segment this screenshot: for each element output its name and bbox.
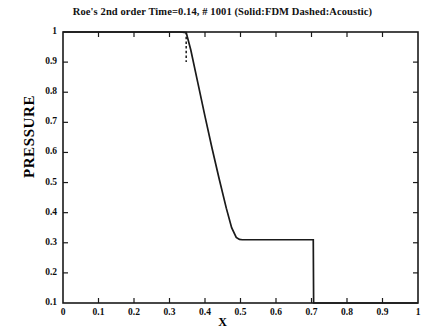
y-tick-label: 1: [23, 26, 57, 36]
x-tick-label: 0.8: [332, 307, 362, 317]
x-tick-label: 0.2: [119, 307, 149, 317]
curve-fdm-solid: [63, 32, 418, 303]
tick-marks: [63, 32, 418, 303]
y-tick-label: 0.1: [23, 297, 57, 307]
x-tick-label: 0.9: [368, 307, 398, 317]
y-tick-label: 0.5: [23, 177, 57, 187]
x-tick-label: 0.7: [297, 307, 327, 317]
y-tick-label: 0.9: [23, 56, 57, 66]
y-tick-label: 0.4: [23, 207, 57, 217]
y-tick-label: 0.2: [23, 267, 57, 277]
y-tick-label: 0.8: [23, 86, 57, 96]
x-tick-label: 0.1: [84, 307, 114, 317]
x-tick-label: 1: [403, 307, 433, 317]
data-curves: [63, 32, 418, 303]
y-tick-label: 0.3: [23, 237, 57, 247]
x-axis-label: X: [0, 315, 445, 330]
y-tick-label: 0.7: [23, 116, 57, 126]
x-tick-label: 0: [48, 307, 78, 317]
axes-frame: [63, 32, 418, 303]
plot-canvas: [0, 0, 445, 333]
x-tick-label: 0.6: [261, 307, 291, 317]
x-tick-label: 0.3: [155, 307, 185, 317]
y-tick-label: 0.6: [23, 146, 57, 156]
x-tick-label: 0.4: [190, 307, 220, 317]
x-tick-label: 0.5: [226, 307, 256, 317]
figure-container: Roe's 2nd order Time=0.14, # 1001 (Solid…: [0, 0, 445, 333]
